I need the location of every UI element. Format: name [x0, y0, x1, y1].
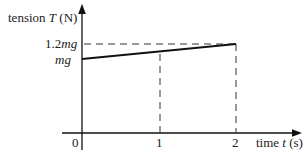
y-tick-1-2mg: 1.2mg [45, 36, 78, 51]
x-tick-0: 0 [72, 135, 79, 150]
tension-time-graph: tension T (N) 1.2mg mg 0 1 2 time t (s) [0, 0, 307, 156]
tension-line [82, 44, 236, 59]
x-tick-2: 2 [232, 135, 239, 150]
x-axis-label: time t (s) [256, 135, 303, 150]
y-axis-label: tension T (N) [8, 10, 77, 25]
y-tick-mg: mg [55, 52, 71, 67]
x-tick-1: 1 [156, 135, 163, 150]
